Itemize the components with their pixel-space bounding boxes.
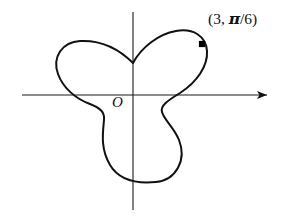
- polar-point-marker: [199, 41, 205, 47]
- point-label-suffix: /6): [240, 10, 257, 27]
- pi-symbol: π: [229, 9, 240, 28]
- polar-point-label: (3, π/6): [208, 11, 257, 27]
- polar-curve-figure: O (3, π/6): [0, 0, 291, 219]
- origin-label: O: [112, 95, 123, 110]
- polar-plot-canvas: [0, 0, 291, 219]
- polar-rose-curve: [56, 30, 207, 182]
- point-label-prefix: (3,: [208, 10, 229, 27]
